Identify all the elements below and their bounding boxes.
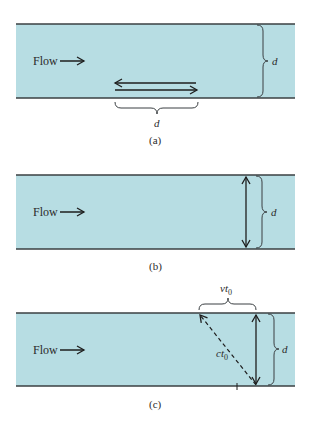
distance-label: d bbox=[154, 117, 160, 129]
bottom-brace-icon bbox=[115, 102, 198, 114]
panel-c: Flow ct0 vt0 d (c) bbox=[16, 282, 295, 411]
drift-label: vt0 bbox=[220, 282, 232, 297]
channel-water bbox=[16, 24, 295, 98]
panel-a: Flow d d (a) bbox=[16, 24, 295, 147]
width-label: d bbox=[282, 343, 288, 355]
panel-b: Flow d (b) bbox=[16, 175, 295, 273]
channel-water bbox=[16, 175, 295, 249]
flow-label: Flow bbox=[33, 343, 58, 357]
caption-a: (a) bbox=[149, 134, 162, 147]
flow-label: Flow bbox=[33, 205, 58, 219]
width-label: d bbox=[272, 55, 278, 67]
flow-channel-diagram: Flow d d (a) Flow d (b) Flow bbox=[0, 0, 312, 422]
channel-water bbox=[16, 313, 295, 386]
caption-b: (b) bbox=[149, 260, 162, 273]
flow-label: Flow bbox=[33, 54, 58, 68]
caption-c: (c) bbox=[149, 398, 162, 411]
top-brace-icon bbox=[199, 298, 256, 310]
width-label: d bbox=[271, 206, 277, 218]
